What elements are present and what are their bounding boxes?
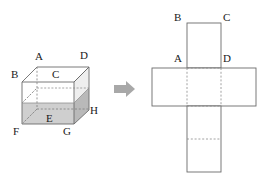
cube-label-F: F	[13, 126, 19, 137]
cube-label-H: H	[90, 105, 98, 116]
cube-front-upper	[22, 82, 74, 103]
net-label-B: B	[174, 12, 181, 23]
cube-label-G: G	[63, 126, 71, 137]
cube-label-C: C	[52, 69, 59, 80]
net-label-A: A	[174, 53, 182, 64]
net-center-fill	[188, 69, 220, 105]
net-label-D: D	[223, 53, 231, 64]
net-label-C: C	[223, 12, 230, 23]
cube-label-B: B	[11, 69, 18, 80]
cube-label-E: E	[46, 113, 53, 124]
net-top-square	[187, 23, 221, 68]
cube-net-figure	[0, 0, 274, 183]
cube-label-D: D	[80, 50, 88, 61]
cube-label-A: A	[35, 51, 43, 62]
